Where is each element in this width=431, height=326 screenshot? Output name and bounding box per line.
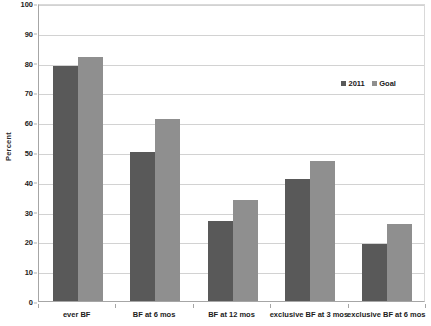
y-tick-label: 20 [5, 238, 33, 247]
legend-label: Goal [379, 79, 396, 88]
bar[interactable] [78, 57, 103, 301]
y-tick-mark [34, 64, 37, 65]
y-tick-label: 60 [5, 119, 33, 128]
x-tick-label: BF at 6 mos [133, 310, 176, 319]
bar-group [208, 5, 258, 301]
plot-area [38, 4, 425, 302]
x-tick-mark [115, 304, 116, 308]
x-tick-label: exclusive BF at 3 mos [270, 310, 348, 319]
bar-group [285, 5, 335, 301]
bar[interactable] [362, 244, 387, 301]
y-tick-mark [34, 272, 37, 273]
bar[interactable] [130, 152, 155, 301]
y-tick-label: 0 [5, 298, 33, 307]
bar[interactable] [285, 179, 310, 301]
x-tick-label: BF at 12 mos [208, 310, 255, 319]
y-tick-label: 100 [5, 0, 33, 9]
bar-group [53, 5, 103, 301]
x-tick-mark [348, 304, 349, 308]
legend-item[interactable]: Goal [372, 79, 396, 88]
x-tick-mark [425, 304, 426, 308]
legend-swatch [341, 81, 346, 86]
y-tick-mark [34, 302, 37, 303]
bar-group [362, 5, 412, 301]
x-tick-mark [38, 304, 39, 308]
bar-group [130, 5, 180, 301]
y-tick-label: 80 [5, 59, 33, 68]
y-tick-mark [34, 123, 37, 124]
x-tick-mark [193, 304, 194, 308]
bar[interactable] [233, 200, 258, 301]
x-tick-label: ever BF [63, 310, 91, 319]
y-tick-mark [34, 4, 37, 5]
y-tick-label: 40 [5, 178, 33, 187]
bar-chart: Percent 0102030405060708090100 2011Goal … [0, 0, 431, 326]
y-tick-label: 10 [5, 268, 33, 277]
x-tick-mark [270, 304, 271, 308]
y-tick-mark [34, 213, 37, 214]
x-axis-tick-labels: ever BFBF at 6 mosBF at 12 mosexclusive … [38, 304, 425, 326]
y-tick-mark [34, 93, 37, 94]
legend-label: 2011 [349, 79, 365, 88]
y-axis-tick-labels: 0102030405060708090100 [0, 0, 38, 326]
y-tick-label: 50 [5, 149, 33, 158]
y-tick-label: 90 [5, 29, 33, 38]
y-tick-mark [34, 242, 37, 243]
y-tick-mark [34, 34, 37, 35]
chart-legend: 2011Goal [341, 79, 396, 88]
legend-swatch [372, 81, 377, 86]
bar[interactable] [310, 161, 335, 301]
legend-item[interactable]: 2011 [341, 79, 365, 88]
y-tick-mark [34, 183, 37, 184]
bar[interactable] [53, 66, 78, 301]
x-tick-label: exclusive BF at 6 mos [347, 310, 425, 319]
bar[interactable] [387, 224, 412, 301]
bars-layer [39, 5, 424, 301]
y-tick-label: 30 [5, 208, 33, 217]
y-tick-label: 70 [5, 89, 33, 98]
y-tick-mark [34, 153, 37, 154]
bar[interactable] [155, 119, 180, 301]
bar[interactable] [208, 221, 233, 301]
